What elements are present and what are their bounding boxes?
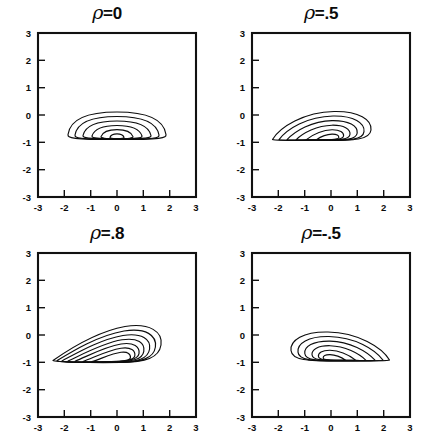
- y-tick-label: 0: [240, 330, 245, 341]
- panel-rho-0: ρ=0: [0, 2, 214, 220]
- x-tick-label: 3: [407, 422, 412, 433]
- y-tick-label: -1: [237, 357, 246, 368]
- y-tick-label: 0: [26, 110, 31, 121]
- x-tick-label: -1: [300, 422, 309, 433]
- x-tick-label: 0: [328, 202, 333, 213]
- x-tick-label: -2: [274, 422, 282, 433]
- axes-frame: [252, 253, 410, 417]
- x-tick-label: 2: [381, 422, 386, 433]
- x-tick-labels: -3 -2 -1 0 1 2 3: [248, 422, 413, 433]
- y-tick-label: 3: [240, 248, 245, 259]
- plot-area-rho-0.8: 3 2 1 0 -1 -2 -3 -3 -2 -1 0 1 2 3: [0, 222, 214, 441]
- y-tick-label: -3: [23, 412, 31, 423]
- x-tick-label: 1: [355, 202, 361, 213]
- x-tick-label: 3: [193, 202, 198, 213]
- y-tick-label: 1: [240, 82, 246, 93]
- y-tick-labels: 3 2 1 0 -1 -2 -3: [23, 248, 32, 423]
- contour-figure: ρ=0: [0, 0, 428, 441]
- y-tick-label: 1: [26, 82, 32, 93]
- x-tick-labels: -3 -2 -1 0 1 2 3: [34, 202, 199, 213]
- y-tick-label: -1: [237, 137, 246, 148]
- x-tick-labels: -3 -2 -1 0 1 2 3: [34, 422, 199, 433]
- y-tick-labels: 3 2 1 0 -1 -2 -3: [237, 28, 246, 203]
- y-tick-label: -3: [23, 192, 31, 203]
- y-tick-label: 3: [26, 248, 31, 259]
- y-tick-label: -2: [237, 164, 245, 175]
- x-tick-label: 1: [141, 422, 147, 433]
- x-tick-label: -3: [34, 422, 42, 433]
- y-tick-label: -3: [237, 412, 245, 423]
- panel-rho-neg0.5: ρ=-.5 3: [214, 222, 428, 441]
- y-tick-label: -2: [237, 384, 245, 395]
- panel-rho-0.8: ρ=.8 3: [0, 222, 214, 441]
- y-tick-label: -1: [23, 357, 32, 368]
- y-tick-label: 0: [26, 330, 31, 341]
- y-tick-labels: 3 2 1 0 -1 -2 -3: [237, 248, 246, 423]
- y-tick-label: 1: [240, 302, 246, 313]
- plot-area-rho-0: 3 2 1 0 -1 -2 -3 -3 -2 -1 0 1 2 3: [0, 2, 214, 220]
- x-tick-label: -1: [300, 202, 309, 213]
- y-tick-label: 3: [26, 28, 31, 39]
- y-tick-label: 2: [26, 275, 31, 286]
- y-tick-label: -3: [237, 192, 245, 203]
- x-tick-label: 1: [141, 202, 147, 213]
- x-tick-labels: -3 -2 -1 0 1 2 3: [248, 202, 413, 213]
- x-tick-label: 3: [193, 422, 198, 433]
- y-tick-label: -2: [23, 384, 31, 395]
- x-tick-label: -1: [86, 422, 95, 433]
- axes-frame: [38, 253, 196, 417]
- y-tick-label: -2: [23, 164, 31, 175]
- x-tick-label: -3: [34, 202, 42, 213]
- x-tick-label: 2: [167, 202, 172, 213]
- x-tick-label: 2: [167, 422, 172, 433]
- x-tick-label: -3: [248, 202, 256, 213]
- x-tick-label: -1: [86, 202, 95, 213]
- x-tick-label: -2: [60, 202, 68, 213]
- y-tick-label: 2: [240, 275, 245, 286]
- plot-area-rho-neg0.5: 3 2 1 0 -1 -2 -3 -3 -2 -1 0 1 2 3: [214, 222, 428, 441]
- x-tick-label: 1: [355, 422, 361, 433]
- axes-frame: [252, 33, 410, 197]
- x-tick-label: -3: [248, 422, 256, 433]
- x-tick-label: -2: [60, 422, 68, 433]
- y-tick-label: 2: [26, 55, 31, 66]
- x-tick-label: 0: [114, 422, 119, 433]
- y-tick-label: 3: [240, 28, 245, 39]
- panel-rho-0.5: ρ=.5 3: [214, 2, 428, 220]
- x-tick-label: 3: [407, 202, 412, 213]
- x-tick-label: 2: [381, 202, 386, 213]
- axes-frame: [38, 33, 196, 197]
- y-tick-label: 2: [240, 55, 245, 66]
- x-tick-label: 0: [114, 202, 119, 213]
- y-tick-labels: 3 2 1 0 -1 -2 -3: [23, 28, 32, 203]
- y-tick-label: -1: [23, 137, 32, 148]
- y-tick-label: 1: [26, 302, 32, 313]
- plot-area-rho-0.5: 3 2 1 0 -1 -2 -3 -3 -2 -1 0 1 2 3: [214, 2, 428, 220]
- y-tick-label: 0: [240, 110, 245, 121]
- x-tick-label: -2: [274, 202, 282, 213]
- x-tick-label: 0: [328, 422, 333, 433]
